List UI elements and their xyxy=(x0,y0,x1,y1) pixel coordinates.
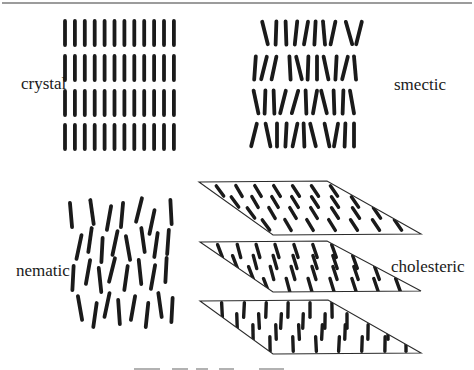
nematic-phase-label: nematic xyxy=(16,262,70,279)
smectic-molecule-array xyxy=(249,19,364,148)
liquid-crystal-phase-diagram: crystal smectic nematic cholesteric xyxy=(0,0,474,370)
cholesteric-layer-planes xyxy=(199,181,421,354)
smectic-phase-label: smectic xyxy=(394,76,446,93)
phase-diagram-canvas xyxy=(0,0,474,370)
nematic-molecule-array xyxy=(68,196,175,329)
crystal-phase-label: crystal xyxy=(21,75,66,92)
cholesteric-phase-label: cholesteric xyxy=(391,258,465,275)
crystal-molecule-array xyxy=(63,19,176,151)
